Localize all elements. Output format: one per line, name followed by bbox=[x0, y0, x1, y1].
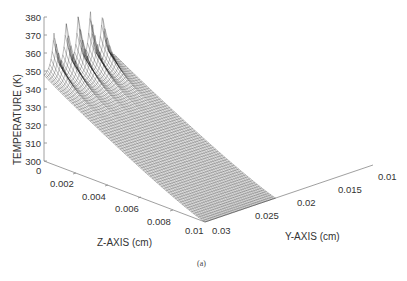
temperature-tick-label: 320 bbox=[25, 120, 41, 131]
y-axis-tick-label: 0.01 bbox=[378, 171, 397, 182]
y-axis-label: Y-AXIS (cm) bbox=[285, 231, 340, 242]
temperature-axis: 380370360350340330320310300 bbox=[25, 12, 47, 167]
temperature-tick-label: 330 bbox=[25, 102, 41, 113]
temperature-axis-label: TEMPERATURE (K) bbox=[12, 74, 23, 165]
temperature-tick-label: 350 bbox=[25, 66, 41, 77]
z-axis-tick-label: 0.004 bbox=[82, 191, 106, 202]
temperature-tick-label: 380 bbox=[25, 12, 41, 23]
z-axis-label: Z-AXIS (cm) bbox=[97, 237, 152, 248]
y-axis-tick-label: 0.015 bbox=[338, 184, 362, 195]
y-axis-tick-label: 0.025 bbox=[255, 210, 279, 221]
temperature-tick-label: 310 bbox=[25, 138, 41, 149]
z-axis-tick-label: 0.002 bbox=[50, 178, 74, 189]
z-axis-tick-label: 0.01 bbox=[185, 225, 204, 236]
z-axis-tick-label: 0 bbox=[36, 165, 41, 176]
z-axis-tick-label: 0.006 bbox=[115, 203, 139, 214]
temperature-tick-label: 370 bbox=[25, 30, 41, 41]
temperature-surface bbox=[44, 12, 276, 222]
z-axis-tick-label: 0.008 bbox=[147, 216, 171, 227]
figure-caption: (a) bbox=[197, 259, 206, 268]
y-axis-tick-label: 0.03 bbox=[212, 225, 231, 236]
temperature-tick-label: 340 bbox=[25, 84, 41, 95]
y-axis-tick-label: 0.02 bbox=[297, 197, 316, 208]
surface-plot: 380370360350340330320310300 00.0020.0040… bbox=[0, 0, 407, 281]
temperature-tick-label: 360 bbox=[25, 48, 41, 59]
